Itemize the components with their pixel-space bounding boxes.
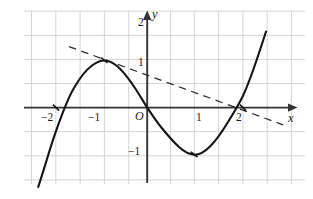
plot-background — [0, 0, 313, 199]
x-tick-neg2: −2 — [41, 112, 53, 124]
plot-canvas — [0, 0, 313, 199]
graph-figure: y x O −2 −1 1 2 2 1 −1 — [0, 0, 313, 199]
x-tick-pos1: 1 — [196, 112, 202, 124]
y-tick-pos2: 2 — [138, 17, 144, 29]
x-tick-neg1: −1 — [88, 112, 100, 124]
y-axis-label: y — [152, 8, 158, 21]
x-axis-label: x — [288, 112, 294, 125]
y-tick-neg1: −1 — [128, 146, 140, 158]
x-tick-pos2: 2 — [236, 112, 242, 124]
y-tick-pos1: 1 — [138, 57, 144, 69]
origin-label: O — [135, 110, 144, 122]
